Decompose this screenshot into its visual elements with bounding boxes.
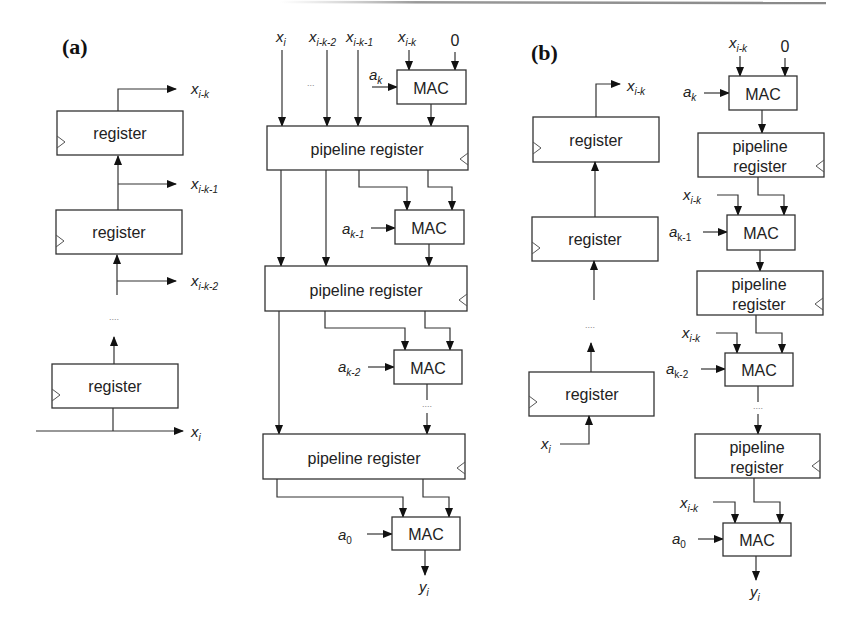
mac-label: MAC bbox=[739, 532, 775, 549]
panel-a-mac-chain: xi xi-k-2 xi-k-1 xi-k 0 ... ak MAC pipel… bbox=[263, 28, 468, 598]
register-label: register bbox=[92, 224, 146, 241]
side-input-label-xik: xi-k bbox=[679, 494, 699, 514]
input-label-xi: xi bbox=[540, 435, 552, 455]
output-label-xik: xi-k bbox=[190, 80, 210, 100]
ellipsis: .... bbox=[753, 401, 763, 411]
register-label: register bbox=[88, 378, 142, 395]
pipeline-label-line1: pipeline bbox=[732, 138, 787, 155]
coef-label-ak: ak bbox=[369, 66, 383, 86]
panel-b-label: (b) bbox=[531, 40, 558, 65]
pipeline-label-line1: pipeline bbox=[731, 276, 786, 293]
pipeline-label-line2: register bbox=[733, 158, 787, 175]
pipeline-label-line2: register bbox=[730, 459, 784, 476]
output-label-yi: yi bbox=[749, 583, 761, 603]
coef-label-ak2: ak-2 bbox=[338, 358, 361, 378]
input-label-xi: xi bbox=[190, 423, 202, 443]
pipeline-label-line1: pipeline bbox=[729, 439, 784, 456]
fir-filter-diagram: (a) xi-k register xi-k-1 register xi-k-2… bbox=[0, 0, 860, 622]
output-label-yi: yi bbox=[418, 578, 430, 598]
coef-label-ak2: ak-2 bbox=[666, 360, 689, 380]
input-label-xik: xi-k bbox=[397, 28, 417, 48]
zero-input-label: 0 bbox=[451, 32, 460, 49]
register-label: register bbox=[93, 125, 147, 142]
panel-a-label: (a) bbox=[62, 34, 88, 59]
ellipsis: .... bbox=[109, 312, 119, 322]
coef-label-ak: ak bbox=[683, 83, 697, 103]
panel-a-shift-register: xi-k register xi-k-1 register xi-k-2 ...… bbox=[36, 80, 218, 443]
coef-label-a0: a0 bbox=[338, 526, 352, 546]
input-label-xik1: xi-k-1 bbox=[345, 28, 373, 48]
mac-label: MAC bbox=[408, 526, 444, 543]
mac-label: MAC bbox=[410, 360, 446, 377]
mac-label: MAC bbox=[411, 220, 447, 237]
mac-label: MAC bbox=[743, 225, 779, 242]
panel-a: (a) xi-k register xi-k-1 register xi-k-2… bbox=[36, 28, 468, 598]
output-label-xik2: xi-k-2 bbox=[190, 272, 218, 292]
mac-label: MAC bbox=[413, 80, 449, 97]
output-label-xik: xi-k bbox=[626, 77, 646, 97]
ellipsis: ... bbox=[307, 78, 315, 88]
coef-label-a0: a0 bbox=[672, 530, 686, 550]
pipeline-register-label: pipeline register bbox=[310, 282, 424, 299]
panel-b-shift-register: xi-k register register .... register xi bbox=[529, 77, 659, 455]
pipeline-register-label: pipeline register bbox=[311, 141, 425, 158]
side-input-label-xik: xi-k bbox=[681, 324, 701, 344]
input-label-xik2: xi-k-2 bbox=[308, 28, 336, 48]
input-label-xi: xi bbox=[275, 28, 287, 48]
panel-b: (b) xi-k register register .... register… bbox=[529, 34, 824, 603]
ellipsis: .... bbox=[422, 399, 432, 409]
pipeline-register-label: pipeline register bbox=[308, 450, 422, 467]
page-top-rule bbox=[280, 2, 826, 3]
zero-input-label: 0 bbox=[781, 38, 790, 55]
register-label: register bbox=[565, 386, 619, 403]
coef-label-ak1: ak-1 bbox=[342, 220, 364, 240]
pipeline-label-line2: register bbox=[732, 296, 786, 313]
input-label-xik: xi-k bbox=[728, 34, 748, 54]
output-label-xik1: xi-k-1 bbox=[190, 175, 218, 195]
register-label: register bbox=[569, 132, 623, 149]
mac-label: MAC bbox=[741, 362, 777, 379]
register-label: register bbox=[568, 231, 622, 248]
ellipsis: .... bbox=[585, 320, 595, 330]
panel-b-mac-chain: xi-k 0 ak MAC pipeline register xi-k ak-… bbox=[666, 34, 824, 603]
mac-label: MAC bbox=[745, 86, 781, 103]
coef-label-ak1: ak-1 bbox=[669, 223, 692, 243]
side-input-label-xik: xi-k bbox=[682, 186, 702, 206]
